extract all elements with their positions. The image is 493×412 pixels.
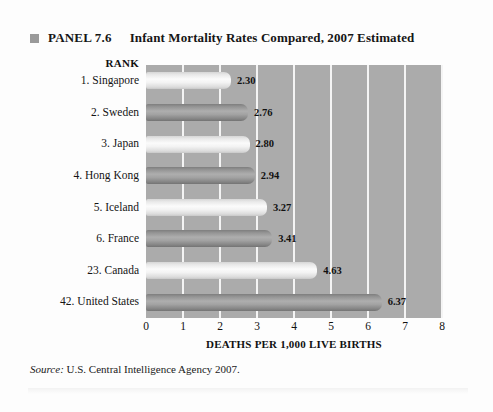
bar[interactable] xyxy=(146,199,267,216)
x-tick-label: 5 xyxy=(328,320,334,332)
bar-value-label: 2.30 xyxy=(237,65,255,97)
x-tick-label: 0 xyxy=(143,320,149,332)
category-label: 5. Iceland xyxy=(0,192,139,224)
bar[interactable] xyxy=(146,294,382,311)
bar-container: 2.30 xyxy=(146,65,442,97)
bar-container: 6.37 xyxy=(146,286,442,318)
chart-row: 2. Sweden2.76 xyxy=(0,97,493,129)
bar-container: 3.27 xyxy=(146,192,442,224)
x-tick-label: 8 xyxy=(439,320,445,332)
bar-value-label: 2.80 xyxy=(256,128,274,160)
bar[interactable] xyxy=(146,72,231,89)
bar-container: 4.63 xyxy=(146,255,442,287)
bar-container: 2.76 xyxy=(146,97,442,129)
bar[interactable] xyxy=(146,230,272,247)
bar-container: 2.94 xyxy=(146,160,442,192)
bar[interactable] xyxy=(146,167,255,184)
bar[interactable] xyxy=(146,104,248,121)
bar-value-label: 2.94 xyxy=(261,160,279,192)
x-axis: 012345678 xyxy=(146,318,442,338)
chart-row: 3. Japan2.80 xyxy=(0,128,493,160)
category-label: 23. Canada xyxy=(0,255,139,287)
bar-value-label: 3.27 xyxy=(273,192,291,224)
bar[interactable] xyxy=(146,262,317,279)
category-label: 4. Hong Kong xyxy=(0,160,139,192)
source-note: Source: U.S. Central Intelligence Agency… xyxy=(30,363,240,375)
bar-value-label: 3.41 xyxy=(278,223,296,255)
chart-row: 23. Canada4.63 xyxy=(0,255,493,287)
x-tick-label: 7 xyxy=(402,320,408,332)
bar-chart: RANK 1. Singapore2.302. Sweden2.763. Jap… xyxy=(0,0,493,412)
chart-row: 1. Singapore2.30 xyxy=(0,65,493,97)
chart-row: 42. United States6.37 xyxy=(0,286,493,318)
bar-value-label: 6.37 xyxy=(388,286,406,318)
category-label: 1. Singapore xyxy=(0,65,139,97)
bar[interactable] xyxy=(146,136,250,153)
x-tick-label: 3 xyxy=(254,320,260,332)
category-label: 2. Sweden xyxy=(0,97,139,129)
x-axis-title: DEATHS PER 1,000 LIVE BIRTHS xyxy=(146,338,442,350)
x-tick-label: 2 xyxy=(217,320,223,332)
chart-row: 4. Hong Kong2.94 xyxy=(0,160,493,192)
bar-value-label: 2.76 xyxy=(254,97,272,129)
bar-container: 3.41 xyxy=(146,223,442,255)
category-label: 6. France xyxy=(0,223,139,255)
bar-container: 2.80 xyxy=(146,128,442,160)
bar-value-label: 4.63 xyxy=(323,255,341,287)
source-label: Source: xyxy=(30,363,64,375)
x-tick-label: 6 xyxy=(365,320,371,332)
x-tick-label: 1 xyxy=(180,320,186,332)
x-tick-label: 4 xyxy=(291,320,297,332)
category-label: 3. Japan xyxy=(0,128,139,160)
chart-row: 6. France3.41 xyxy=(0,223,493,255)
category-label: 42. United States xyxy=(0,286,139,318)
source-text: U.S. Central Intelligence Agency 2007. xyxy=(67,363,240,375)
page-shadow xyxy=(28,388,468,394)
chart-row: 5. Iceland3.27 xyxy=(0,192,493,224)
panel-figure: PANEL 7.6 Infant Mortality Rates Compare… xyxy=(0,0,493,412)
